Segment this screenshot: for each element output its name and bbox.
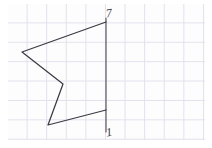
- arrow-polygon: [22, 22, 106, 125]
- figure-canvas: 7 1: [0, 0, 212, 148]
